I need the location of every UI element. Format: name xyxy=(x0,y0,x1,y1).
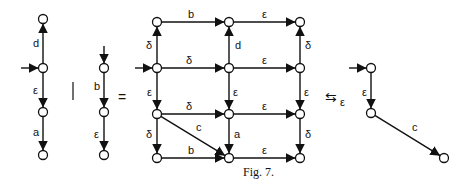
state-node xyxy=(296,154,305,163)
edge-label: ε xyxy=(233,86,238,98)
edge-label: δ xyxy=(146,39,152,51)
edge-label: b xyxy=(188,8,194,20)
edge-label: c xyxy=(412,121,418,133)
state-node xyxy=(100,151,109,160)
edge-label: ε xyxy=(94,128,99,140)
edge-label: ε xyxy=(33,84,38,96)
edge-label: ε xyxy=(147,86,152,98)
state-node xyxy=(440,154,449,163)
figure-caption: Fig. 7. xyxy=(243,165,274,179)
edge-label: ε xyxy=(262,144,267,156)
edge-c xyxy=(375,115,440,155)
state-node xyxy=(39,64,48,73)
edge-label: δ xyxy=(305,39,311,51)
edge-label: δ xyxy=(305,128,311,140)
edge-label: ε xyxy=(262,8,267,20)
edge-label: δ xyxy=(186,100,192,112)
edge-label: b xyxy=(94,80,100,92)
bisimulation-operator: ⇆ xyxy=(325,89,337,105)
state-node xyxy=(153,64,162,73)
edge-label: b xyxy=(188,144,194,156)
state-node xyxy=(296,18,305,27)
edge-label: a xyxy=(33,126,40,138)
state-node xyxy=(296,64,305,73)
edge-label: a xyxy=(234,128,241,140)
state-node xyxy=(100,108,109,117)
state-node xyxy=(225,64,234,73)
equals-operator: = xyxy=(118,89,126,105)
edge-label: δ xyxy=(186,54,192,66)
state-node xyxy=(39,151,48,160)
state-node xyxy=(100,64,109,73)
labels-layer: dεabεbεδdδδεεεεδεcδaδbεεc xyxy=(33,8,418,156)
edge-label: ε xyxy=(262,54,267,66)
state-node xyxy=(153,18,162,27)
edges-layer xyxy=(21,22,440,158)
state-node xyxy=(225,18,234,27)
edge-label: ε xyxy=(362,86,367,98)
state-node xyxy=(153,110,162,119)
state-node xyxy=(153,154,162,163)
state-node xyxy=(225,154,234,163)
edge-label: d xyxy=(235,39,241,51)
state-node xyxy=(296,110,305,119)
state-node xyxy=(39,15,48,24)
edge-label: ε xyxy=(304,86,309,98)
state-node xyxy=(367,64,376,73)
figure-7-diagram: dεabεbεδdδδεεεεδεcδaδbεεc = ⇆ ε Fig. 7. xyxy=(0,0,472,186)
edge-label: c xyxy=(196,121,202,133)
state-node xyxy=(367,109,376,118)
edge-label: δ xyxy=(146,128,152,140)
edge-label: d xyxy=(33,37,39,49)
state-node xyxy=(39,108,48,117)
state-node xyxy=(225,110,234,119)
bisimulation-subscript: ε xyxy=(340,96,345,108)
edge-label: ε xyxy=(262,100,267,112)
